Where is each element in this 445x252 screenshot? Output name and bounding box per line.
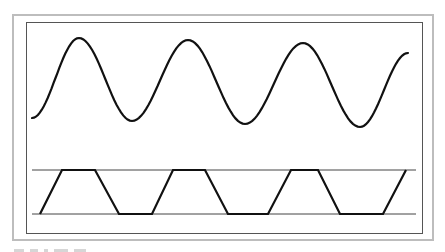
- trapezoid-wave: [40, 170, 406, 214]
- sine-wave: [32, 38, 408, 127]
- waveform-diagram: [0, 0, 445, 252]
